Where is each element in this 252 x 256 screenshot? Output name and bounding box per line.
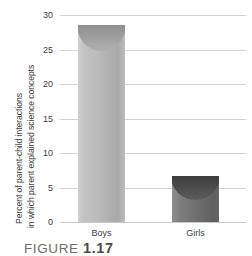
- y-axis-title-line-1: Percent of parent-child interactions: [14, 93, 24, 224]
- y-tick-label-10: 10: [43, 149, 53, 158]
- x-tick-label-girls: Girls: [172, 228, 219, 238]
- figure-caption-prefix: FIGURE: [24, 241, 79, 256]
- figure-caption-number: 1.17: [83, 240, 114, 256]
- bar-girls[interactable]: [172, 176, 219, 222]
- y-tick-label-30: 30: [43, 11, 53, 20]
- bar-boys[interactable]: [78, 25, 125, 222]
- x-axis-baseline: 0: [60, 222, 246, 223]
- plot-area: 30 25 20 15 10 5 0 Boys Girls: [60, 15, 246, 222]
- y-tick-label-15: 15: [43, 114, 53, 123]
- figure-caption: FIGURE 1.17: [24, 240, 114, 256]
- y-tick-label-5: 5: [48, 183, 53, 192]
- bar-boys-body: [78, 25, 125, 222]
- figure-container: Percent of parent-child interactions in …: [0, 0, 252, 256]
- y-tick-label-25: 25: [43, 45, 53, 54]
- gridline-30: 30: [60, 15, 246, 16]
- y-tick-label-0: 0: [48, 218, 53, 227]
- y-axis-title: Percent of parent-child interactions in …: [0, 0, 36, 228]
- y-tick-label-20: 20: [43, 80, 53, 89]
- y-axis-title-line-2: in which parent explained science concep…: [26, 65, 36, 228]
- x-tick-label-boys: Boys: [78, 228, 125, 238]
